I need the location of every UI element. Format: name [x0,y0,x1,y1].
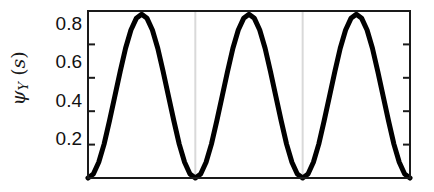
chart-figure: ψY (s) 0.8 0.6 0.4 0.2 [0,0,434,192]
plot-area [0,0,434,192]
plot-background [88,11,410,178]
